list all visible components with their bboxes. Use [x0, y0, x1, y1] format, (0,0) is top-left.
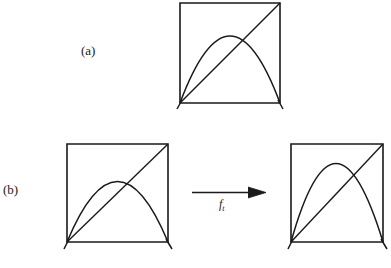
transform-arrow [186, 184, 272, 202]
square-a-parabola [180, 36, 280, 103]
square-a-diagram [174, 0, 288, 114]
panel-label-a: (a) [81, 44, 95, 57]
square-b-right-parabola [291, 164, 383, 243]
square-b-left-diagonal [67, 144, 168, 242]
arrow-head [248, 187, 266, 198]
square-b-right-diagonal [291, 144, 383, 242]
figure-canvas: (a) (b) ft [0, 0, 391, 268]
panel-label-b: (b) [3, 183, 18, 196]
arrow-label-subscript-t: t [222, 204, 224, 213]
square-b-left-parabola [67, 182, 168, 243]
arrow-label-ft: ft [219, 198, 225, 213]
square-b-right-diagram [285, 141, 391, 256]
square-b-left-diagram [61, 141, 176, 256]
square-a-diagonal [180, 3, 280, 103]
